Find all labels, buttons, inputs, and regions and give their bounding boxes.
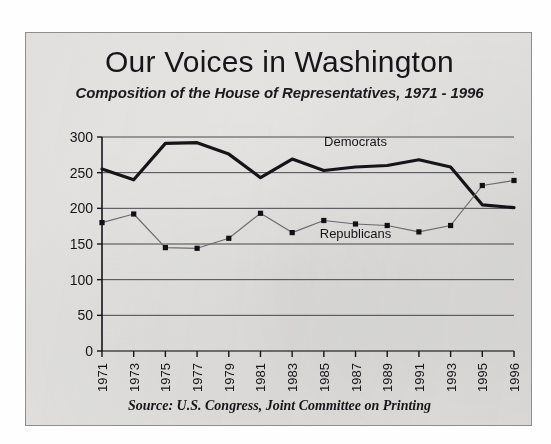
x-axis-tick-label: 1975 xyxy=(158,363,173,392)
chart-card: Our Voices in Washington Composition of … xyxy=(25,32,532,426)
data-point-marker xyxy=(131,211,136,216)
line-chart-svg: 0501001502002503001971197319751977197919… xyxy=(26,33,532,426)
y-axis-tick-label: 200 xyxy=(70,200,94,216)
x-axis-tick-label: 1977 xyxy=(190,363,205,392)
x-axis-tick-label: 1993 xyxy=(444,363,459,392)
x-axis-tick-label: 1981 xyxy=(253,363,268,392)
x-axis-tick-label: 1995 xyxy=(475,363,490,392)
data-point-marker xyxy=(290,230,295,235)
y-axis-tick-label: 300 xyxy=(70,129,94,145)
data-point-marker xyxy=(416,229,421,234)
x-axis-tick-label: 1983 xyxy=(285,363,300,392)
series-line-democrats xyxy=(102,143,514,208)
y-axis-tick-label: 50 xyxy=(77,307,93,323)
x-axis-tick-label: 1987 xyxy=(349,363,364,392)
data-point-marker xyxy=(226,236,231,241)
data-point-marker xyxy=(195,246,200,251)
y-axis-tick-label: 250 xyxy=(70,165,94,181)
x-axis-tick-label: 1996 xyxy=(507,363,522,392)
y-axis-tick-label: 150 xyxy=(70,236,94,252)
series-label-republicans: Republicans xyxy=(320,226,392,241)
x-axis-tick-label: 1989 xyxy=(380,363,395,392)
y-axis-tick-label: 100 xyxy=(70,272,94,288)
series-line-republicans xyxy=(102,181,514,249)
data-point-marker xyxy=(163,245,168,250)
y-axis-tick-label: 0 xyxy=(85,343,93,359)
x-axis-tick-label: 1991 xyxy=(412,363,427,392)
plot-area: 0501001502002503001971197319751977197919… xyxy=(26,33,532,426)
source-note: Source: U.S. Congress, Joint Committee o… xyxy=(26,398,532,414)
data-point-marker xyxy=(511,178,516,183)
x-axis-tick-label: 1971 xyxy=(95,363,110,392)
x-axis-tick-label: 1979 xyxy=(222,363,237,392)
series-label-democrats: Democrats xyxy=(324,134,387,149)
x-axis-tick-label: 1985 xyxy=(317,363,332,392)
chart-page: Our Voices in Washington Composition of … xyxy=(0,0,551,444)
data-point-marker xyxy=(99,220,104,225)
data-point-marker xyxy=(480,183,485,188)
data-point-marker xyxy=(321,218,326,223)
x-axis-tick-label: 1973 xyxy=(127,363,142,392)
data-point-marker xyxy=(258,211,263,216)
data-point-marker xyxy=(448,223,453,228)
